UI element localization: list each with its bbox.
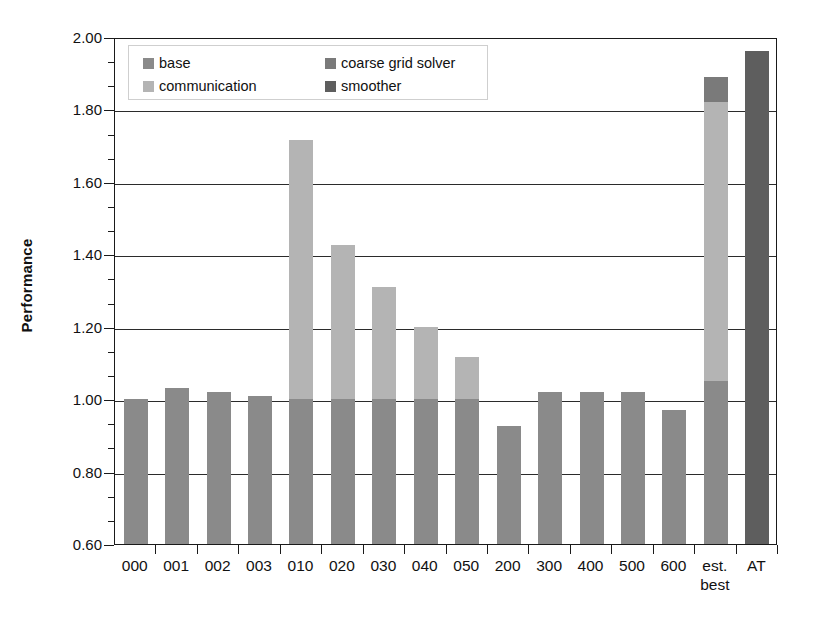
y-tick-label: 1.20 [38,320,102,335]
y-tick-mark-major [104,473,114,474]
bar-group[interactable] [414,37,438,544]
x-tick-mark [155,545,156,554]
y-tick-label: 2.00 [38,30,102,45]
legend-swatch-icon [325,58,336,69]
bar-segment-base[interactable] [248,396,272,544]
chart-legend: basecoarse grid solvercommunicationsmoot… [128,45,488,100]
bar-group[interactable] [207,37,231,544]
x-tick-mark [363,545,364,554]
x-tick-mark [736,545,737,554]
bar-group[interactable] [165,37,189,544]
x-tick-mark [197,545,198,554]
bar-group[interactable] [289,37,313,544]
y-tick-label: 0.80 [38,465,102,480]
y-tick-label: 1.80 [38,102,102,117]
bar-segment-smoother[interactable] [745,51,769,544]
bar-segment-base[interactable] [124,399,148,544]
bar-segment-base[interactable] [580,392,604,544]
bar-segment-base[interactable] [497,426,521,544]
legend-item-communication[interactable]: communication [143,78,257,94]
bar-group[interactable] [248,37,272,544]
x-tick-mark [404,545,405,554]
bar-segment-communication[interactable] [455,357,479,399]
x-tick-mark [321,545,322,554]
y-tick-mark-major [104,38,114,39]
bar-segment-base[interactable] [165,388,189,544]
x-tick-label: AT [726,556,786,575]
y-tick-mark-major [104,328,114,329]
bar-segment-communication[interactable] [331,245,355,399]
bar-group[interactable] [621,37,645,544]
legend-label: smoother [341,78,401,94]
y-tick-mark-major [104,545,114,546]
bar-group[interactable] [580,37,604,544]
y-tick-label: 1.00 [38,392,102,407]
y-tick-label: 0.60 [38,537,102,552]
y-tick-label: 1.60 [38,175,102,190]
y-tick-label: 1.40 [38,247,102,262]
legend-swatch-icon [143,58,154,69]
bar-segment-base[interactable] [372,399,396,544]
bar-segment-communication[interactable] [414,327,438,399]
bar-segment-base[interactable] [538,392,562,544]
x-tick-mark [694,545,695,554]
x-tick-mark [487,545,488,554]
y-tick-mark-major [104,183,114,184]
legend-swatch-icon [143,81,154,92]
bar-segment-communication[interactable] [289,140,313,399]
legend-swatch-icon [325,81,336,92]
bar-group[interactable] [372,37,396,544]
legend-item-base[interactable]: base [143,55,190,71]
x-tick-mark [238,545,239,554]
bar-group[interactable] [704,37,728,544]
bar-segment-coarse-grid-solver[interactable] [704,77,728,102]
bar-segment-communication[interactable] [372,287,396,399]
legend-item-coarse-grid-solver[interactable]: coarse grid solver [325,55,455,71]
y-tick-mark-major [104,400,114,401]
bar-segment-communication[interactable] [704,102,728,381]
x-tick-label-line: AT [726,556,786,575]
bar-segment-base[interactable] [207,392,231,544]
bar-group[interactable] [538,37,562,544]
y-tick-mark-major [104,110,114,111]
legend-label: base [159,55,190,71]
legend-label: communication [159,78,257,94]
bar-segment-base[interactable] [331,399,355,544]
bar-group[interactable] [124,37,148,544]
x-tick-label-line: best [685,575,745,594]
y-axis-ticks: 0.600.801.001.201.401.601.802.00 [0,0,114,617]
bar-group[interactable] [662,37,686,544]
bar-segment-base[interactable] [455,399,479,544]
x-tick-mark [280,545,281,554]
bar-group[interactable] [331,37,355,544]
bar-group[interactable] [455,37,479,544]
bar-group[interactable] [745,37,769,544]
bar-segment-base[interactable] [414,399,438,544]
bar-chart: Performance 0.600.801.001.201.401.601.80… [0,0,814,617]
legend-item-smoother[interactable]: smoother [325,78,401,94]
x-tick-mark [570,545,571,554]
bar-segment-base[interactable] [621,392,645,544]
bar-segment-base[interactable] [289,399,313,544]
x-tick-mark [653,545,654,554]
x-tick-mark [777,545,778,554]
x-tick-mark [446,545,447,554]
bar-segment-base[interactable] [662,410,686,544]
x-tick-mark [528,545,529,554]
legend-label: coarse grid solver [341,55,455,71]
bar-group[interactable] [497,37,521,544]
plot-area [114,38,777,545]
bar-segment-base[interactable] [704,381,728,544]
x-tick-mark [611,545,612,554]
y-tick-mark-major [104,255,114,256]
